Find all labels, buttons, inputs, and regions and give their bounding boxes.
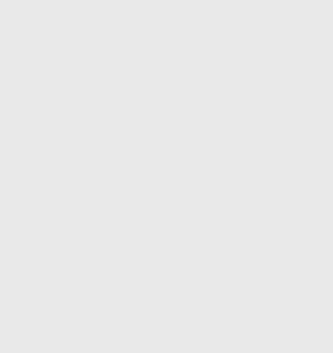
coordinate-plane	[0, 0, 333, 353]
